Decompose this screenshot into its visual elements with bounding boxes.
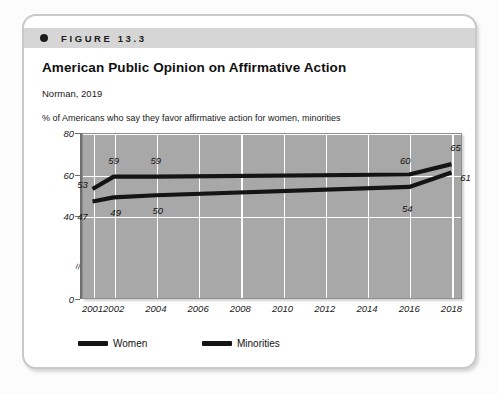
x-axis-tick-label: 2008 [230, 303, 251, 314]
data-point-label: 65 [450, 142, 461, 153]
figure-title: American Public Opinion on Affirmative A… [42, 60, 346, 75]
figure-label: FIGURE 13.3 [61, 33, 147, 44]
y-axis-tick-label: 0 [69, 294, 74, 305]
bullet-dot-icon [40, 34, 48, 42]
x-axis-tick-label: 2006 [188, 303, 209, 314]
legend-item: Women [78, 338, 147, 349]
x-axis-tick-label: 2002 [103, 303, 124, 314]
data-point-label: 49 [110, 207, 121, 218]
y-axis-tick-labels: 0406080 [42, 129, 78, 303]
legend-swatch-icon [202, 341, 232, 346]
y-axis-tick [75, 175, 80, 176]
data-point-label: 59 [151, 155, 162, 166]
figure-source: Norman, 2019 [42, 88, 102, 99]
legend-item: Minorities [202, 338, 280, 349]
data-point-label: 50 [153, 205, 164, 216]
x-axis-tick-label: 2012 [314, 303, 335, 314]
legend-label: Women [113, 338, 147, 349]
x-axis-tick-labels: 2001200220042006200820102012201420162018 [82, 303, 462, 323]
data-point-label: 54 [402, 203, 413, 214]
x-axis-tick-label: 2018 [441, 303, 462, 314]
data-point-label: 53 [77, 179, 88, 190]
x-axis-tick-label: 2014 [356, 303, 377, 314]
x-axis-tick-label: 2004 [145, 303, 166, 314]
x-axis-tick-label: 2010 [272, 303, 293, 314]
y-axis-tick-label: 40 [63, 211, 74, 222]
x-axis-tick-label: 2016 [399, 303, 420, 314]
data-point-label: 47 [77, 211, 88, 222]
y-axis-tick-label: 80 [63, 128, 74, 139]
chart-legend: WomenMinorities [42, 338, 442, 356]
data-point-label: 59 [108, 155, 119, 166]
figure-page: FIGURE 13.3 American Public Opinion on A… [0, 0, 499, 394]
legend-swatch-icon [78, 341, 108, 346]
figure-header-bar: FIGURE 13.3 [24, 28, 475, 48]
y-axis-tick-label: 60 [63, 169, 74, 180]
y-axis-tick [75, 299, 80, 300]
data-point-label: 60 [400, 155, 411, 166]
data-point-label: 61 [460, 172, 471, 183]
y-axis-tick [75, 133, 80, 134]
chart: 0406080 ≈ 53595960654749505461 200120022… [42, 129, 467, 329]
axis-description: % of Americans who say they favor affirm… [42, 113, 340, 123]
x-axis-tick-label: 2001 [82, 303, 103, 314]
legend-label: Minorities [237, 338, 280, 349]
figure-card: FIGURE 13.3 American Public Opinion on A… [22, 14, 477, 369]
